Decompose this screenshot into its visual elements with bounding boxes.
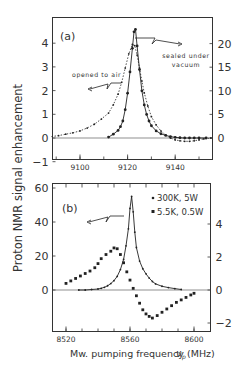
- data-point-300k-5w: [136, 247, 138, 249]
- legend-square-icon: [152, 210, 155, 213]
- data-point-opened-to-air: [86, 127, 88, 129]
- data-point-sealed-under-vacuum: [121, 120, 124, 123]
- panel-a: 910091209140−10123405101520 (a) opened t…: [32, 18, 231, 172]
- data-point-5-5k-0-5w: [141, 308, 144, 311]
- legend: 300K, 5W 5.5K, 0.5W: [152, 193, 205, 217]
- data-point-sealed-under-vacuum: [174, 136, 177, 139]
- data-point-opened-to-air: [143, 92, 145, 94]
- data-point-300k-5w: [134, 231, 136, 233]
- data-point-opened-to-air: [101, 118, 103, 120]
- y-right-tick-label: 10: [218, 85, 232, 98]
- data-point-300k-5w: [125, 245, 127, 247]
- data-point-sealed-under-vacuum: [134, 28, 137, 31]
- data-point-5-5k-0-5w: [129, 279, 132, 282]
- x-tick-label: 8560: [120, 335, 139, 344]
- annotation-sealed-line2: vacuum: [172, 61, 200, 68]
- data-point-300k-5w: [168, 287, 170, 289]
- data-point-5-5k-0-5w: [69, 280, 72, 283]
- data-point-opened-to-air: [193, 140, 195, 142]
- data-point-5-5k-0-5w: [138, 302, 141, 305]
- data-point-opened-to-air: [121, 81, 123, 83]
- data-point-opened-to-air: [160, 130, 162, 132]
- data-point-5-5k-0-5w: [185, 296, 188, 299]
- x-tick-label: 8600: [184, 335, 203, 344]
- x-tick-label: 9100: [70, 163, 89, 172]
- data-point-opened-to-air: [112, 104, 114, 106]
- data-point-300k-5w: [107, 285, 109, 287]
- y-right-tick-label: 4: [216, 218, 223, 231]
- data-point-opened-to-air: [134, 45, 136, 47]
- data-point-5-5k-0-5w: [109, 250, 112, 253]
- data-point-opened-to-air: [189, 140, 191, 142]
- data-point-opened-to-air: [179, 140, 181, 142]
- arrow-left-icon: [90, 83, 121, 89]
- data-point-5-5k-0-5w: [122, 261, 125, 264]
- data-point-5-5k-0-5w: [189, 294, 192, 297]
- panel-b-label: (b): [62, 202, 78, 215]
- data-point-sealed-under-vacuum: [119, 125, 122, 128]
- y-right-tick-label: 2: [216, 251, 223, 264]
- data-point-5-5k-0-5w: [116, 247, 119, 250]
- data-point-5-5k-0-5w: [97, 262, 100, 265]
- data-point-5-5k-0-5w: [170, 304, 173, 307]
- data-point-sealed-under-vacuum: [117, 129, 120, 132]
- panel-b: 8520856086000204060−2024 (b) 300K, 5W 5.…: [35, 182, 232, 344]
- data-point-5-5k-0-5w: [180, 299, 183, 302]
- data-point-opened-to-air: [108, 112, 110, 114]
- data-point-sealed-under-vacuum: [179, 136, 182, 139]
- y-right-tick-label: 5: [218, 108, 225, 121]
- data-point-opened-to-air: [174, 139, 176, 141]
- x-axis-label-sub: p: [181, 353, 186, 361]
- data-point-300k-5w: [142, 268, 144, 270]
- data-point-300k-5w: [123, 259, 125, 261]
- data-point-sealed-under-vacuum: [183, 137, 186, 140]
- data-point-300k-5w: [131, 196, 133, 198]
- data-point-opened-to-air: [128, 53, 130, 55]
- data-point-300k-5w: [129, 208, 131, 210]
- data-point-5-5k-0-5w: [132, 287, 135, 290]
- data-point-300k-5w: [152, 281, 154, 283]
- data-point-sealed-under-vacuum: [193, 137, 196, 140]
- figure: Proton NMR signal enhancement 9100912091…: [0, 0, 237, 370]
- x-axis-label-main: Mw. pumping frequency: [70, 348, 184, 359]
- data-point-opened-to-air: [184, 140, 186, 142]
- data-point-sealed-under-vacuum: [148, 120, 151, 123]
- data-point-sealed-under-vacuum: [107, 136, 110, 139]
- data-point-opened-to-air: [79, 130, 81, 132]
- data-point-opened-to-air: [117, 93, 119, 95]
- data-point-300k-5w: [78, 289, 80, 291]
- data-point-300k-5w: [113, 280, 115, 282]
- data-point-opened-to-air: [72, 132, 74, 134]
- data-point-opened-to-air: [147, 105, 149, 107]
- annotation-opened-to-air: opened to air: [72, 71, 121, 79]
- panel-a-series: [51, 28, 211, 142]
- data-point-5-5k-0-5w: [148, 315, 151, 318]
- y-left-tick-label: 40: [35, 216, 49, 229]
- data-point-5-5k-0-5w: [151, 317, 154, 320]
- data-point-5-5k-0-5w: [165, 308, 168, 311]
- data-point-300k-5w: [174, 288, 176, 290]
- data-point-300k-5w: [127, 228, 129, 230]
- data-point-5-5k-0-5w: [100, 257, 103, 260]
- x-axis-label-unit: (MHz): [187, 348, 215, 359]
- data-point-300k-5w: [84, 289, 86, 291]
- x-axis-label: Mw. pumping frequency ν p (MHz): [70, 348, 215, 361]
- data-point-300k-5w: [120, 269, 122, 271]
- data-point-sealed-under-vacuum: [160, 132, 163, 135]
- data-point-sealed-under-vacuum: [155, 130, 158, 133]
- data-point-sealed-under-vacuum: [140, 89, 143, 92]
- data-point-sealed-under-vacuum: [138, 68, 141, 71]
- legend-item-300k: 300K, 5W: [157, 193, 199, 203]
- data-point-5-5k-0-5w: [79, 275, 82, 278]
- data-point-opened-to-air: [65, 133, 67, 135]
- data-point-sealed-under-vacuum: [143, 104, 146, 107]
- data-point-opened-to-air: [58, 135, 60, 137]
- data-point-5-5k-0-5w: [113, 247, 116, 250]
- data-point-300k-5w: [139, 260, 141, 262]
- data-point-300k-5w: [104, 286, 106, 288]
- data-point-300k-5w: [161, 285, 163, 287]
- y-right-tick-label: 0: [218, 132, 225, 145]
- data-point-300k-5w: [155, 283, 157, 285]
- y-right-tick-label: 15: [218, 61, 232, 74]
- data-point-5-5k-0-5w: [125, 270, 128, 273]
